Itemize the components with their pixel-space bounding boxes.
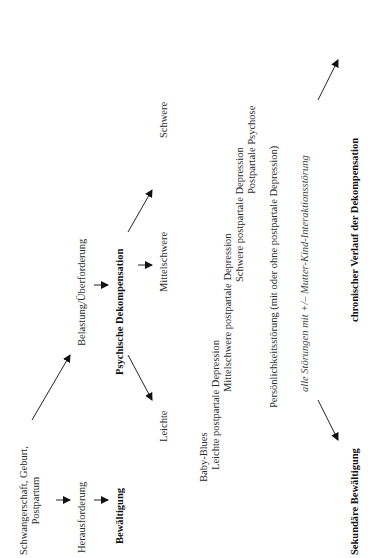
node-start-line1: Schwangerschaft, Geburt, [18,446,30,555]
arrow-to-mild [128,355,152,400]
node-severe-ppd: Schwere postpartale Depression [234,147,246,282]
node-personality-disorder: Persönlichkeitsstörung (mit oder ohne po… [268,146,280,408]
node-challenge: Herausforderung [76,482,88,553]
node-moderate: Mittelschwere [158,232,170,292]
node-burden: Belastung/Überforderung [76,239,88,346]
node-pp-psychosis: Postpartale Psychose [246,106,258,194]
arrow-to-severe [128,190,152,232]
node-decompensation: Psychische Dekompensation [114,249,126,375]
arrows-layer [0,0,368,558]
arrow-to-secondary-coping [318,400,338,440]
node-all-disorders: alle Störungen mit +/– Mutter-Kind-Inter… [299,155,311,392]
node-baby-blues: Baby-Blues [198,432,210,482]
node-mild-ppd: Leichte postpartale Depression [210,340,222,470]
node-mild: Leichte [158,411,170,442]
node-chronic-course: chronischer Verlauf der Dekompensation [349,138,361,322]
node-secondary-coping: Sekundäre Bewältigung [349,448,361,555]
node-coping: Bewältigung [114,488,126,544]
node-moderate-ppd: Mittelschwere postpartale Depression [222,233,234,392]
arrow-start-to-burden [32,355,70,420]
arrow-to-chronic-course [318,60,338,100]
node-start: Schwangerschaft, Geburt, Postpartum [18,446,42,555]
node-start-line2: Postpartum [30,446,42,555]
node-severe: Schwere [158,102,170,138]
